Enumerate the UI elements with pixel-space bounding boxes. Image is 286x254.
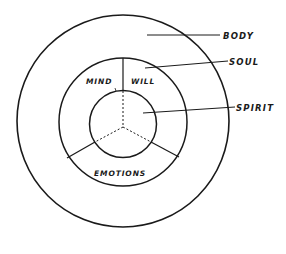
label-emotions: EMOTIONS [94, 169, 146, 178]
label-soul: SOUL [229, 57, 259, 67]
divider-mind-emotions [67, 142, 95, 158]
dashed-divider-right [123, 127, 151, 142]
dashed-divider-left [95, 127, 123, 142]
label-body: BODY [223, 31, 254, 41]
label-mind: MIND [86, 77, 112, 86]
body-soul-spirit-diagram: BODY SOUL SPIRIT MIND WILL EMOTIONS [0, 0, 286, 254]
soul-leader-line [145, 61, 228, 68]
label-spirit: SPIRIT [236, 103, 274, 113]
tick-mark [115, 88, 116, 91]
label-will: WILL [131, 77, 155, 86]
divider-will-emotions [151, 142, 179, 157]
spirit-leader-line [143, 107, 235, 113]
